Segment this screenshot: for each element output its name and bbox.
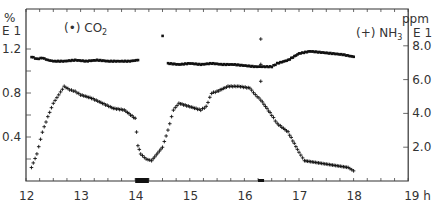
svg-text:4.0: 4.0 — [412, 106, 431, 120]
left-axis-unit: % — [4, 12, 15, 24]
svg-text:1.2: 1.2 — [2, 42, 21, 56]
svg-text:13: 13 — [74, 189, 89, 203]
svg-text:12: 12 — [19, 189, 34, 203]
svg-text:14: 14 — [128, 189, 143, 203]
right-axis-scale: E 1 — [413, 27, 432, 39]
data-points — [30, 35, 356, 173]
left-axis-scale: E 1 — [2, 25, 21, 37]
legend-nh3: (+) NH3 — [356, 27, 402, 42]
svg-text:19 h: 19 h — [404, 189, 431, 203]
svg-text:6.0: 6.0 — [412, 73, 431, 87]
svg-text:2.0: 2.0 — [412, 140, 431, 154]
svg-text:15: 15 — [183, 189, 198, 203]
svg-text:8.0: 8.0 — [412, 39, 431, 53]
svg-text:16: 16 — [237, 189, 252, 203]
right-axis-unit: ppm — [402, 13, 429, 25]
legend-co2: (•) CO2 — [64, 22, 107, 37]
svg-text:0.8: 0.8 — [2, 86, 21, 100]
svg-text:0.4: 0.4 — [2, 130, 21, 144]
svg-text:17: 17 — [292, 189, 307, 203]
svg-text:18: 18 — [347, 189, 362, 203]
